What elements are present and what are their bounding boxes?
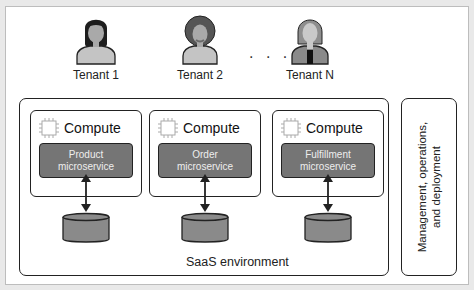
microservice-suffix: microservice	[159, 161, 251, 173]
tenant-1: Tenant 1	[56, 14, 136, 82]
tenant-label: Tenant 2	[160, 68, 240, 82]
management-label-line2: and deployment	[429, 102, 443, 272]
tenant-2: Tenant 2	[160, 14, 240, 82]
female-user-icon	[288, 14, 332, 66]
microservice-name: Order	[159, 149, 251, 161]
tenant-n: Tenant N	[270, 14, 350, 82]
compute-title: Compute	[64, 120, 121, 136]
compute-title: Compute	[183, 120, 240, 136]
management-operations-deployment: Management, operations, and deployment	[401, 98, 457, 276]
order-microservice: Order microservice	[158, 143, 252, 178]
male-user-icon	[178, 14, 222, 66]
bidirectional-arrow-icon	[80, 174, 92, 212]
tenant-label: Tenant 1	[56, 68, 136, 82]
cpu-chip-icon	[280, 117, 302, 139]
female-user-icon	[74, 14, 118, 66]
saas-environment-container: Compute Product microservice Compute Ord…	[19, 98, 389, 276]
microservice-name: Product	[40, 149, 132, 161]
management-label-line1: Management, operations,	[415, 102, 429, 272]
management-label: Management, operations, and deployment	[415, 102, 443, 272]
cpu-chip-icon	[157, 117, 179, 139]
compute-title: Compute	[306, 120, 363, 136]
fulfillment-microservice: Fulfillment microservice	[281, 143, 375, 178]
database-icon	[303, 212, 353, 244]
bidirectional-arrow-icon	[199, 174, 211, 212]
bidirectional-arrow-icon	[322, 174, 334, 212]
saas-environment-label: SaaS environment	[186, 255, 289, 269]
microservice-suffix: microservice	[40, 161, 132, 173]
microservice-name: Fulfillment	[282, 149, 374, 161]
database-icon	[61, 212, 111, 244]
cpu-chip-icon	[38, 117, 60, 139]
microservice-suffix: microservice	[282, 161, 374, 173]
product-microservice: Product microservice	[39, 143, 133, 178]
tenant-label: Tenant N	[270, 68, 350, 82]
database-icon	[180, 212, 230, 244]
